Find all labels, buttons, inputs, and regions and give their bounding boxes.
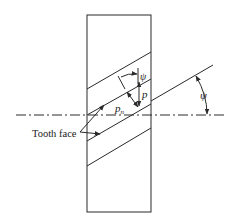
p-label: p [141,88,148,100]
normal-reference-line [118,76,125,89]
helix-angle-arc-top [121,74,137,77]
normal-pitch-arrow [127,92,138,107]
tooth-face-leader-2 [80,132,100,134]
pn-label: pn [114,102,125,116]
tooth-face-leader-1 [80,105,104,132]
helical-gear-diagram: ψ ψ p pn Tooth face [0,0,236,224]
tooth-face-label: Tooth face [32,128,77,139]
psi-right-label: ψ [200,89,207,101]
psi-top-label: ψ [140,71,147,82]
